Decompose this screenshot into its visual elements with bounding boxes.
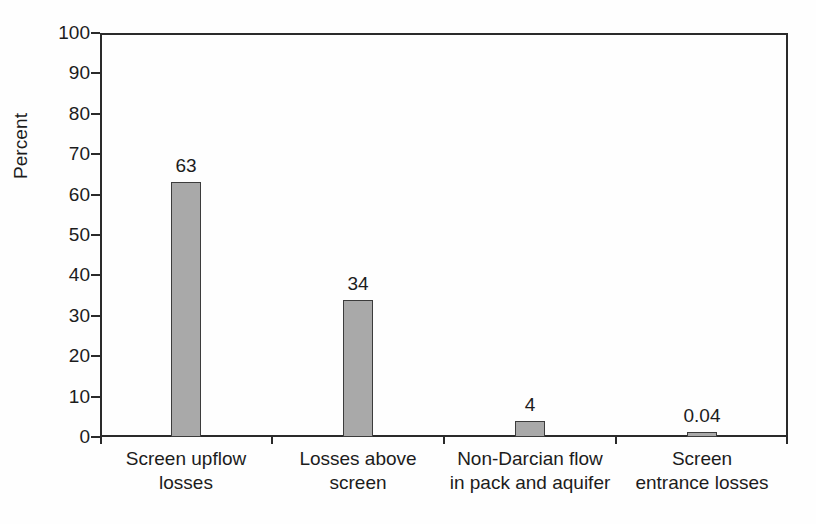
y-axis-tick [91, 355, 100, 357]
y-axis-tick [91, 315, 100, 317]
bar-chart: Percent 1009080706050403020100 Screen up… [0, 0, 816, 524]
y-axis-tick-label: 10 [26, 387, 90, 406]
bar [515, 421, 545, 437]
x-axis-category-line: in pack and aquifer [444, 471, 616, 495]
bar-value-label: 63 [136, 156, 236, 175]
y-axis-tick-label: 30 [26, 306, 90, 325]
x-axis-category-line: Non-Darcian flow [444, 447, 616, 471]
plot-area [100, 33, 788, 437]
y-axis-tick [91, 234, 100, 236]
y-axis-tick [91, 32, 100, 34]
bar [343, 300, 373, 437]
x-axis-category-line: entrance losses [616, 471, 788, 495]
x-axis-category-label: Screenentrance losses [616, 447, 788, 495]
plot-right-border [786, 33, 788, 437]
x-axis-category-label: Non-Darcian flowin pack and aquifer [444, 447, 616, 495]
y-axis-tick [91, 436, 100, 438]
y-axis-tick-label: 80 [26, 104, 90, 123]
x-axis-tick [100, 435, 102, 444]
y-axis-tick [91, 153, 100, 155]
bar [171, 182, 201, 437]
y-axis-tick-label: 70 [26, 144, 90, 163]
y-axis-tick [91, 113, 100, 115]
x-axis-category-line: losses [100, 471, 272, 495]
x-axis-category-line: Losses above [272, 447, 444, 471]
y-axis-tick-label: 20 [26, 346, 90, 365]
x-axis-category-line: Screen [616, 447, 788, 471]
x-axis-tick [786, 435, 788, 444]
y-axis-tick-label: 0 [26, 427, 90, 446]
bar-value-label: 34 [308, 274, 408, 293]
y-axis-tick [91, 396, 100, 398]
y-axis-tick-label: 90 [26, 63, 90, 82]
x-axis-category-label: Screen upflowlosses [100, 447, 272, 495]
x-axis-tick [271, 435, 273, 444]
y-axis-tick [91, 194, 100, 196]
bar-value-label: 0.04 [652, 406, 752, 425]
y-axis-tick [91, 274, 100, 276]
y-axis-tick-label: 40 [26, 265, 90, 284]
y-axis-tick [91, 72, 100, 74]
x-axis-category-label: Losses abovescreen [272, 447, 444, 495]
y-axis-tick-label: 60 [26, 185, 90, 204]
x-axis-tick [615, 435, 617, 444]
y-axis-line [100, 33, 102, 437]
x-axis-tick [443, 435, 445, 444]
plot-top-border [100, 33, 788, 35]
y-axis-tick-label: 50 [26, 225, 90, 244]
bar-value-label: 4 [480, 395, 580, 414]
bar [687, 432, 717, 437]
x-axis-category-line: Screen upflow [100, 447, 272, 471]
y-axis-tick-label: 100 [26, 23, 90, 42]
x-axis-category-line: screen [272, 471, 444, 495]
